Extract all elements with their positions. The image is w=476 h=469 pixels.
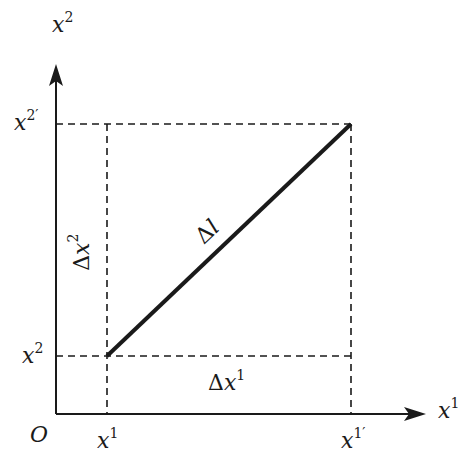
x-axis-label-base: x <box>438 398 450 423</box>
delta-x2-base: x <box>69 242 94 254</box>
tick-x-end-base: x <box>341 428 353 453</box>
tick-x-start: x1 <box>97 428 118 452</box>
tick-y-start: x2 <box>22 343 43 367</box>
tick-x-end: x1′ <box>341 428 366 452</box>
tick-y-end: x2′ <box>14 110 39 134</box>
diagram-canvas: x2 x1 O x2′ x2 x1 x1′ Δx1 Δx2 Δl <box>0 0 476 469</box>
delta-x1-sup: 1 <box>236 367 245 383</box>
tick-x-start-base: x <box>97 428 109 453</box>
delta-x2-label: Δx2 <box>68 234 92 271</box>
delta-x2-delta: Δ <box>69 255 94 271</box>
tick-y-start-base: x <box>22 343 34 368</box>
delta-x1-delta: Δ <box>208 370 224 395</box>
tick-y-start-sup: 2 <box>34 340 43 356</box>
delta-x2-sup: 2 <box>65 234 81 243</box>
displacement-segment <box>107 124 351 356</box>
y-axis-label-sup: 2 <box>64 9 73 25</box>
delta-x1-label: Δx1 <box>208 370 245 394</box>
y-axis-label-base: x <box>52 12 64 37</box>
x-axis-label: x1 <box>438 398 459 422</box>
tick-y-end-base: x <box>14 110 26 135</box>
tick-x-end-sup: 1′ <box>353 425 365 441</box>
x-axis-label-sup: 1 <box>450 395 459 411</box>
tick-y-end-sup: 2′ <box>26 107 38 123</box>
tick-x-start-sup: 1 <box>109 425 118 441</box>
delta-x1-base: x <box>224 370 236 395</box>
origin-label: O <box>30 424 48 446</box>
y-axis-label: x2 <box>52 12 73 36</box>
